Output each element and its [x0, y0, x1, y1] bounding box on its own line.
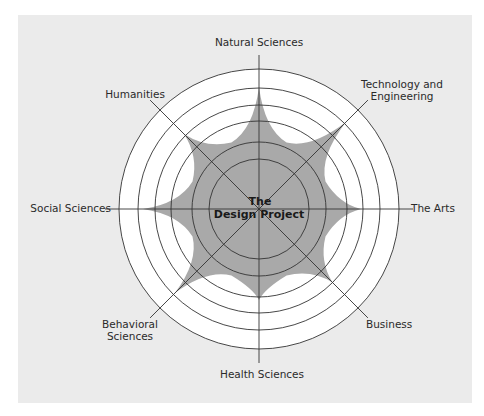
axis-label-line: Sciences	[107, 330, 153, 342]
axis-label-natural-sciences: Natural Sciences	[215, 36, 303, 48]
axis-label-line: Humanities	[105, 88, 165, 100]
axis-label-social-sciences: Social Sciences	[30, 202, 111, 214]
center-title-line2: Design Project	[214, 208, 305, 221]
axis-label-line: Natural Sciences	[215, 36, 303, 48]
axis-label-humanities: Humanities	[105, 88, 165, 100]
axis-label-behavioral-sciences: BehavioralSciences	[102, 318, 158, 342]
axis-label-health-sciences: Health Sciences	[220, 368, 304, 380]
axis-label-line: Health Sciences	[220, 368, 304, 380]
axis-label-technology-engineering: Technology andEngineering	[360, 78, 443, 102]
center-title-line1: The	[249, 195, 272, 208]
axis-label-the-arts: The Arts	[410, 202, 455, 214]
axis-label-business: Business	[366, 318, 412, 330]
axis-label-line: Business	[366, 318, 412, 330]
design-project-radial-diagram: Natural SciencesTechnology andEngineerin…	[0, 0, 484, 416]
axis-label-line: Engineering	[371, 90, 434, 102]
axis-label-line: Behavioral	[102, 318, 158, 330]
axis-label-line: The Arts	[410, 202, 455, 214]
axis-label-line: Social Sciences	[30, 202, 111, 214]
axis-label-line: Technology and	[360, 78, 443, 90]
